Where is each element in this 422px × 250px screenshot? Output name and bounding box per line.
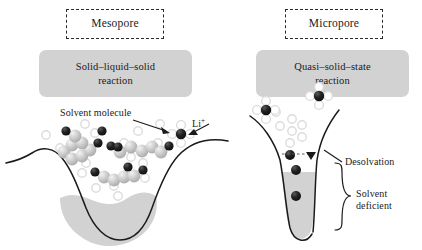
desolvation-arrowhead [306, 152, 316, 160]
panel-mesopore: Mesopore Solid–liquid–solid reaction Sol… [0, 0, 232, 250]
desolvation-leader [324, 150, 342, 162]
li-ion-sphere [176, 129, 186, 139]
figure-root: Mesopore Solid–liquid–solid reaction Sol… [0, 0, 422, 250]
micropore-artwork [232, 0, 422, 250]
panel-micropore: Micropore Quasi–solid–state reaction Des… [232, 0, 422, 250]
mesopore-artwork [0, 0, 232, 250]
micropore-right-wall [313, 110, 339, 232]
solvent-chain-3 [90, 162, 147, 186]
solvated-li-cluster-left [253, 97, 280, 124]
solvent-deficient-brace [335, 163, 351, 230]
solvated-li-cluster-right [306, 83, 333, 110]
